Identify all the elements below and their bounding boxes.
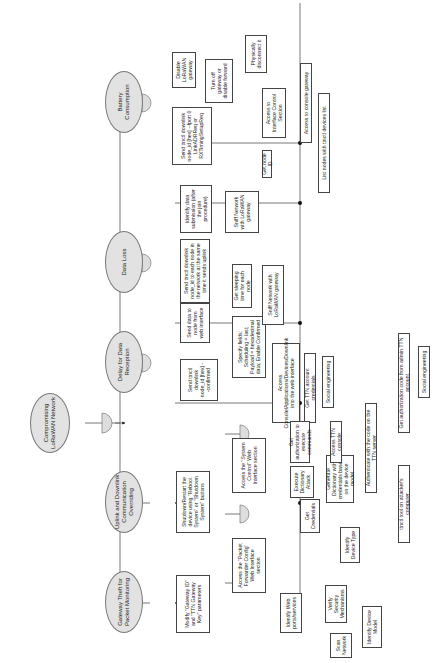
node-send-ttnctl-each: Send ttnctl downlink node_id to each nod… — [180, 239, 210, 303]
node-shutdown-restart: Shutdown/Restart the device using "Reboo… — [176, 471, 210, 533]
node-identify-device-model: Identify Device Model — [362, 606, 382, 648]
goal-gateway-theft: Gateway Theft for Packet Monitoring — [105, 571, 143, 633]
node-list-nodes: List nodes with ttnctl devices list — [318, 93, 330, 193]
goal-delay-data-reception: Delay for Data Reception — [105, 331, 143, 393]
node-get-sleeping-time: Get sleeping time for each node — [232, 264, 252, 308]
node-modify-gateway-params: Modify "Gateway ID" and "TTN Gateway Key… — [176, 575, 210, 633]
node-access-interface-control: Access to Interface Control Section — [262, 88, 286, 138]
node-authenticate-ttn-server: Authenticate with the code on the TTN se… — [365, 403, 377, 493]
node-disable-gateway: Disable LoRaWAN gateway — [172, 52, 196, 88]
node-sniff-network-1: Sniff Network with LoRaWAN gateway — [262, 265, 284, 325]
root-goal: Compromising LoRaWAN Network — [30, 393, 70, 453]
goal-battery-consumption: Battery Consumption — [105, 71, 143, 133]
node-get-node-id: Get node ID — [262, 150, 272, 178]
node-ttnctl-tool: ttnctl tool on attacker's computer — [398, 465, 410, 543]
node-get-authorization: Get authorization to execute commands — [290, 421, 310, 463]
node-execute-dictionary-attack: Execute Dictionary Attack — [290, 466, 314, 498]
node-access-console-gateway: Access to console gateway — [300, 63, 312, 143]
node-social-engineering-2: Social engineering — [418, 346, 430, 398]
node-system-control: Access the "System Control" Web Interfac… — [232, 438, 266, 493]
node-physically-disconnect: Physically disconnect it — [245, 35, 267, 73]
node-packet-forwarder-config: Access the "Packet Forwarder Config" Web… — [232, 538, 266, 593]
node-verify-security: Verify Security Mechanisms — [325, 585, 347, 623]
node-get-credentials: Get Credentials — [300, 499, 320, 533]
node-scan-network: Scan Network — [330, 633, 352, 658]
node-identify-data-submission: Identify data submission (after the join… — [180, 185, 212, 233]
node-send-data-web: Send data to node from web interface — [180, 303, 210, 343]
goal-uplink-downlink-overriding: Uplink and Downlink Communication Overri… — [105, 471, 143, 533]
node-access-console-downlink: Access Console/Applications/Devices/Down… — [272, 343, 300, 423]
node-social-engineering-1: Social engineering — [322, 356, 334, 408]
node-access-ttn-console: Access TTN console — [330, 421, 342, 463]
node-send-ttnctl-confirmed: Send ttnctl downlink node_id [hex] --con… — [180, 359, 218, 401]
node-get-auth-code: Get authorization code from admin TTN ac… — [398, 333, 410, 433]
node-get-ttn-credentials: Get TTN account credentials — [304, 353, 316, 423]
attack-tree-diagram: Compromising LoRaWAN Network Gateway The… — [0, 0, 443, 663]
node-specify-fields: Specify fields: Scheduling = last; Paylo… — [232, 316, 266, 378]
node-sniff-network-2: Sniff Network with LoRaWAN gateway — [225, 191, 259, 233]
node-identify-web-ports: Identify Web ports/services — [280, 593, 302, 633]
goal-data-loss: Data Loss — [105, 231, 143, 293]
node-send-mac-command: Send ttnctl downlink node_id [hex] --fpo… — [172, 107, 212, 165]
node-turn-off-gateway: Turn off gateway or disable forward — [205, 59, 233, 103]
node-identify-device-type: Identify Device Type — [340, 527, 360, 563]
